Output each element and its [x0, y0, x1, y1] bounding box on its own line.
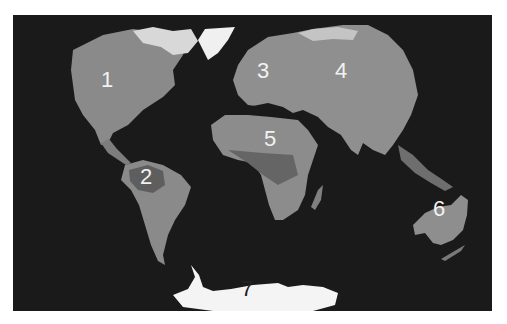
region-label-3: 3: [257, 60, 269, 82]
region-label-6: 6: [433, 198, 445, 220]
greenland: [198, 27, 235, 60]
antarctica: [173, 265, 338, 311]
world-map: [13, 15, 492, 311]
central-america: [101, 139, 131, 165]
region-label-1: 1: [101, 69, 113, 91]
madagascar: [311, 185, 323, 210]
map-canvas: [13, 15, 492, 311]
region-label-4: 4: [335, 60, 347, 82]
region-label-7: 7: [241, 278, 253, 300]
region-label-5: 5: [264, 128, 276, 150]
region-label-2: 2: [140, 166, 152, 188]
new-zealand: [441, 245, 465, 261]
southeast-asia: [398, 145, 453, 191]
